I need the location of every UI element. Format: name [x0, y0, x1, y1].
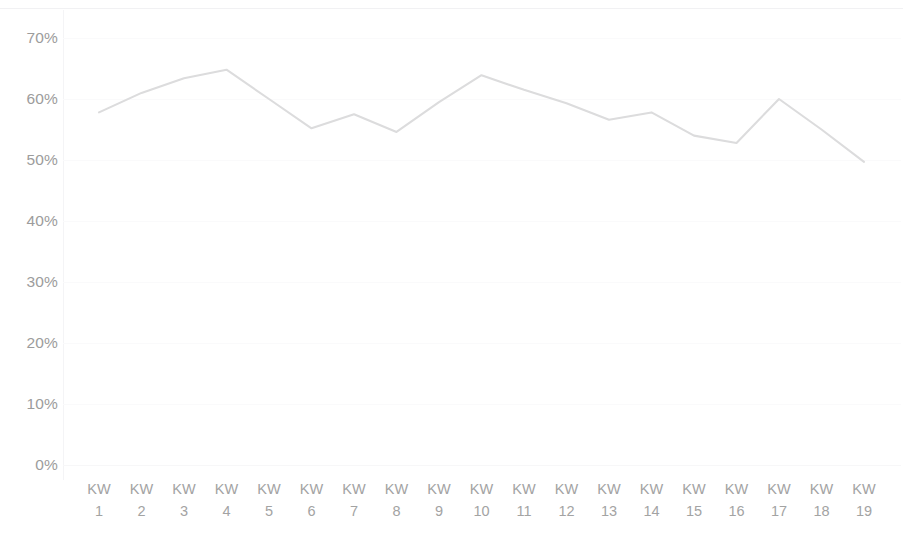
line-chart: 0%10%20%30%40%50%60%70% KW1KW2KW3KW4KW5K… [0, 0, 903, 547]
x-tick-prefix: KW [839, 478, 889, 500]
x-axis-tick-label: KW19 [839, 478, 889, 523]
series-line-layer [0, 0, 903, 547]
x-tick-number: 19 [839, 500, 889, 522]
series-line-path [99, 70, 864, 162]
x-axis-tick-labels: KW1KW2KW3KW4KW5KW6KW7KW8KW9KW10KW11KW12K… [0, 478, 903, 542]
